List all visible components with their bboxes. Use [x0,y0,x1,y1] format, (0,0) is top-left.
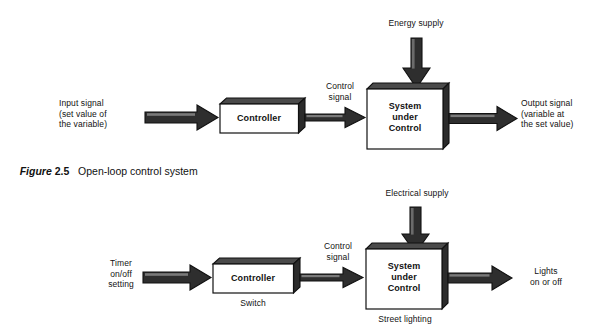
controller-sublabel-switch: Switch [213,298,293,309]
system-sublabel-street-lighting: Street lighting [362,314,448,325]
system-under-control-label-bottom: System under Control [366,261,442,294]
controller-label-bottom: Controller [213,273,293,284]
energy-supply-label: Energy supply [371,18,461,29]
energy-supply-arrow [403,38,430,88]
figure-caption-word: Figure [20,165,52,177]
input-signal-arrow-bottom [143,265,211,290]
controller-label-top: Controller [220,113,298,124]
figure-caption: Figure 2.5 Open-loop control system [8,152,198,191]
control-signal-arrow-bottom [300,268,363,288]
control-signal-label-bottom: Control signal [312,241,364,262]
output-signal-arrow-bottom [448,266,512,290]
figure-caption-number: 2.5 [55,165,70,177]
input-signal-label-bottom: Timer on/off setting [99,258,143,290]
input-signal-arrow-top [145,105,218,130]
output-signal-arrow-top [449,107,517,131]
electrical-supply-label: Electrical supply [367,188,467,199]
output-signal-label-bottom: Lights on or off [516,266,576,287]
input-signal-label-top: Input signal (set value of the variable) [59,98,143,130]
control-signal-label-top: Control signal [314,81,366,102]
output-signal-label-top: Output signal (variable at the set value… [521,98,591,130]
control-signal-arrow-top [305,108,365,128]
figure-open-loop-control: Input signal (set value of the variable)… [0,0,591,333]
system-under-control-label-top: System under Control [367,101,443,134]
figure-caption-title: Open-loop control system [78,165,198,177]
